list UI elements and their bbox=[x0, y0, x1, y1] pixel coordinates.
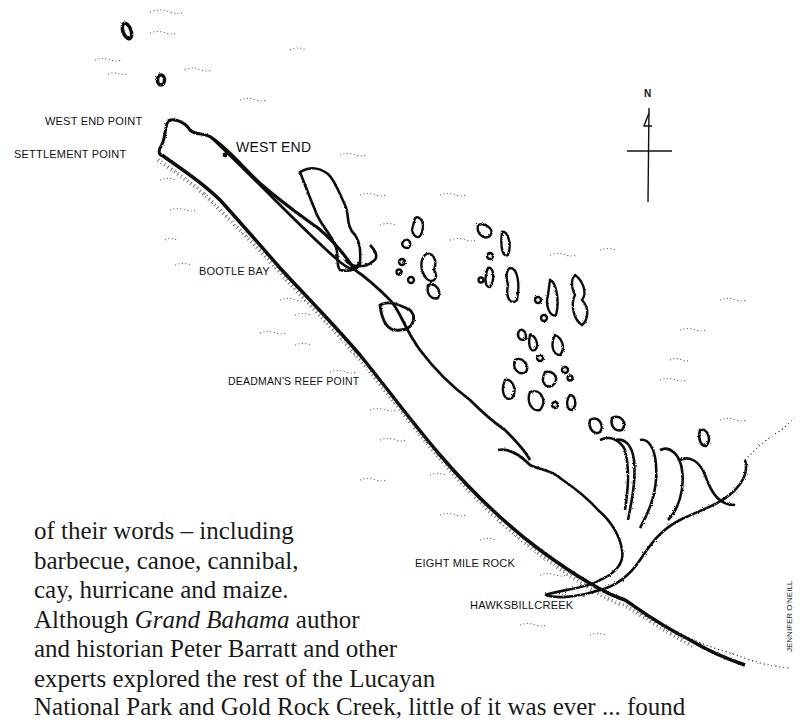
body-line-4-suffix: author bbox=[290, 606, 360, 633]
creek-system bbox=[498, 417, 795, 668]
body-line-3: cay, hurricane and maize. bbox=[34, 575, 435, 605]
body-line-7-truncated: National Park and Gold Rock Creek, littl… bbox=[34, 692, 685, 722]
inner-coast bbox=[355, 270, 530, 460]
body-line-1: of their words – including bbox=[34, 516, 435, 546]
compass-north-label: N bbox=[644, 88, 651, 99]
label-bootle-bay: BOOTLE BAY bbox=[199, 265, 270, 277]
body-line-6: experts explored the rest of the Lucayan bbox=[34, 664, 435, 694]
label-west-end-point: WEST END POINT bbox=[45, 115, 142, 127]
label-settlement-point: SETTLEMENT POINT bbox=[14, 148, 126, 160]
label-west-end: WEST END bbox=[236, 139, 311, 155]
label-deadmans-reef-point: DEADMAN'S REEF POINT bbox=[228, 375, 359, 387]
label-hawksbill-creek: HAWKSBILLCREEK bbox=[470, 599, 573, 611]
northern-cays bbox=[121, 22, 165, 85]
book-title-grand-bahama: Grand Bahama bbox=[135, 606, 290, 633]
body-text: of their words – including barbecue, can… bbox=[34, 516, 435, 693]
body-line-4-prefix: Although bbox=[34, 606, 135, 633]
lagoon-arm bbox=[300, 168, 376, 270]
compass-icon bbox=[627, 108, 672, 202]
west-end-town-marker bbox=[223, 153, 228, 158]
body-line-2: barbecue, canoe, cannibal, bbox=[34, 546, 435, 576]
illustrator-credit: JENNIFER O'NEILL bbox=[785, 581, 794, 652]
island-cluster bbox=[397, 217, 588, 410]
body-line-4: Although Grand Bahama author bbox=[34, 605, 435, 635]
body-line-5: and historian Peter Barratt and other bbox=[34, 634, 435, 664]
